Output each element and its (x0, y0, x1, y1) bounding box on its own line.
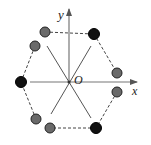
gray-charge (31, 114, 41, 124)
gray-charge (112, 87, 122, 97)
hexagon-charge-diagram: y x O (0, 0, 151, 145)
origin-label: O (74, 73, 83, 87)
x-axis-label: x (131, 84, 138, 98)
y-axis-label: y (56, 7, 64, 22)
origin-point (68, 81, 71, 84)
gray-charge (30, 41, 40, 51)
gray-charge (40, 27, 50, 37)
black-charge (91, 123, 102, 134)
black-charge (89, 29, 100, 40)
gray-charge (45, 123, 55, 133)
diagram-canvas: y x O (0, 0, 151, 145)
gray-charge (112, 68, 122, 78)
black-charges (16, 29, 102, 134)
black-charge (16, 77, 27, 88)
